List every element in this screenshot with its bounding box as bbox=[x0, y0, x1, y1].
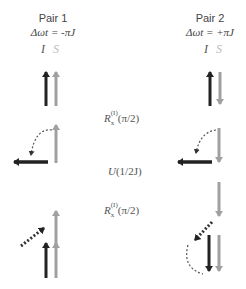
spin-vector-diagram bbox=[0, 0, 246, 289]
pair1-state4-arrows bbox=[46, 243, 56, 278]
pair2-state2-arrows bbox=[178, 128, 219, 162]
pair1-state1-arrows bbox=[46, 72, 56, 106]
pair1-state3-arrows bbox=[21, 211, 56, 246]
pair2-state1-arrows bbox=[210, 72, 220, 106]
pair1-state2-arrows bbox=[14, 125, 56, 163]
pair2-state4-arrows bbox=[187, 222, 219, 274]
